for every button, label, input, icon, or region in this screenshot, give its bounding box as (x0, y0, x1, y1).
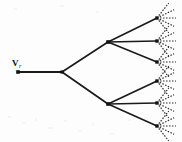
leaf-node-1-fan-ray-2 (160, 10, 174, 17)
edge-lower-leaf4 (108, 81, 157, 104)
root-node-label: V (12, 58, 19, 68)
first-split-node (60, 70, 63, 73)
leaf-node-6-fan-ray-5 (159, 128, 169, 141)
tree-diagram-figure: V r (0, 0, 182, 142)
leaf-node-6 (155, 124, 158, 127)
leaf-node-1-fan-ray-5 (159, 20, 169, 33)
leaf-node-4-fan-ray-5 (159, 83, 169, 96)
edge-lower-leaf6 (108, 104, 157, 126)
leaf-node-1 (155, 16, 158, 19)
leaf-node-3-fan-ray-2 (160, 54, 174, 61)
leaf-node-4 (155, 79, 158, 82)
leaf-node-6-fan-ray-1 (159, 111, 169, 124)
leaf-node-5-fan-ray-2 (160, 95, 174, 102)
leaf-node-4-fan-ray-4 (160, 82, 174, 89)
edge-upper-leaf3 (108, 42, 157, 62)
leaf-node-5-fan-ray-4 (160, 104, 174, 111)
leaf-node-5 (155, 101, 158, 104)
leaf-node-1-fan-ray-4 (160, 19, 174, 26)
leaf-node-2-fan-ray-1 (159, 26, 169, 39)
leaf-node-5-fan-ray-5 (159, 105, 169, 118)
leaf-node-3-fan-ray-5 (159, 64, 169, 77)
leaf-node-4-fan-ray-1 (159, 66, 169, 79)
edge-split-lower (62, 72, 108, 104)
edge-lower-leaf5 (108, 103, 157, 104)
leaf-node-5-fan-ray-1 (159, 88, 169, 101)
leaf-node-6-fan-ray-4 (160, 127, 174, 134)
leaf-node-2-fan-ray-2 (160, 33, 174, 40)
edge-upper-leaf1 (108, 18, 157, 42)
edge-split-upper (62, 42, 108, 72)
leaf-node-2 (155, 39, 158, 42)
leaf-node-3 (155, 60, 158, 63)
leaf-fan-group (159, 3, 176, 141)
edge-group (18, 18, 157, 126)
leaf-node-2-fan-ray-4 (160, 42, 174, 49)
internal-node-lower (106, 102, 110, 106)
root-node (16, 70, 20, 74)
internal-node-upper (106, 40, 110, 44)
leaf-node-6-fan-ray-2 (160, 118, 174, 125)
leaf-node-1-fan-ray-1 (159, 3, 169, 16)
edge-upper-leaf2 (108, 41, 157, 42)
tree-diagram-canvas: V r (0, 0, 182, 142)
root-node-label-subscript: r (19, 63, 22, 69)
